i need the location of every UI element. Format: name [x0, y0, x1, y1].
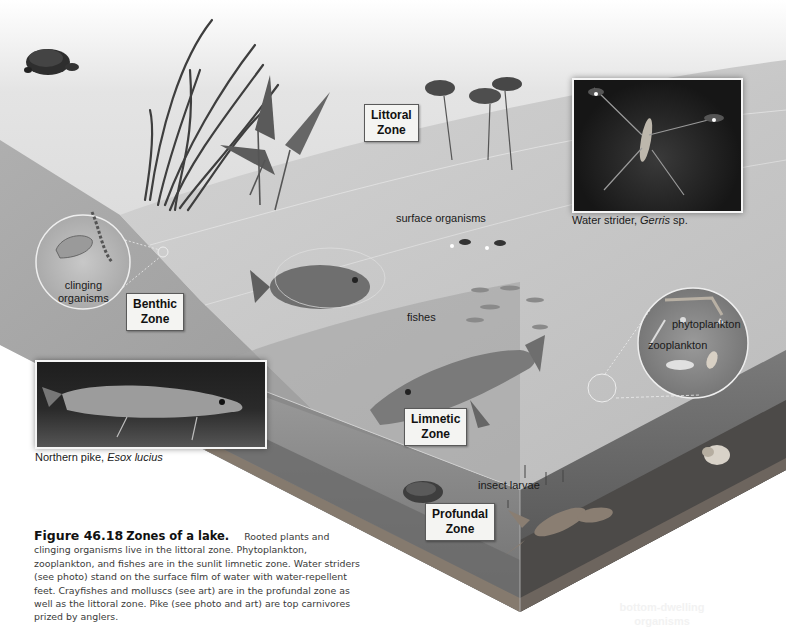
fishes-label: fishes	[407, 311, 436, 323]
water-strider-suffix: sp.	[673, 214, 688, 226]
northern-pike-caption: Northern pike, Esox lucius	[35, 451, 163, 463]
figure-number: Figure 46.18	[34, 528, 123, 543]
profundal-zone-label: Profundal Zone	[425, 503, 495, 541]
clinging-organisms-label: clinging organisms	[58, 279, 109, 305]
bottom-dwelling-organisms-label: bottom-dwelling organisms	[612, 600, 712, 628]
water-strider-photo	[572, 78, 743, 213]
water-strider-caption: Water strider, Gerris sp.	[572, 214, 688, 226]
figure-title: Zones of a lake.	[126, 529, 229, 543]
insect-larvae-label: insect larvae	[478, 479, 540, 491]
northern-pike-photo	[35, 360, 267, 449]
figure-caption: Figure 46.18 Zones of a lake. Rooted pla…	[34, 529, 364, 624]
water-strider-icon	[574, 80, 741, 211]
pike-fish-icon	[37, 362, 265, 447]
water-strider-common-name: Water strider,	[572, 214, 637, 226]
benthic-zone-label: Benthic Zone	[126, 293, 184, 331]
figure-body: Rooted plants and clinging organisms liv…	[34, 531, 360, 622]
northern-pike-scientific-name: Esox lucius	[107, 451, 163, 463]
northern-pike-common-name: Northern pike,	[35, 451, 104, 463]
zooplankton-label: zooplankton	[648, 339, 707, 351]
limnetic-zone-label: Limnetic Zone	[404, 408, 467, 446]
clam-icon	[403, 481, 443, 503]
surface-organisms-label: surface organisms	[396, 212, 486, 224]
water-strider-scientific-name: Gerris	[640, 214, 670, 226]
littoral-zone-label: Littoral Zone	[364, 104, 419, 142]
phytoplankton-label: phytoplankton	[672, 318, 741, 330]
